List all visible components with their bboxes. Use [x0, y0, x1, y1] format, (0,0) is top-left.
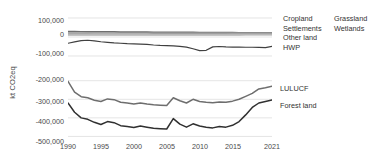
- gridlines-lower: [68, 81, 272, 137]
- legend-upper-right: Grassland Wetlands: [334, 14, 367, 33]
- series-group-lower: [68, 81, 272, 129]
- legend-item-settlements: Settlements: [283, 24, 322, 34]
- plot-area: [68, 0, 272, 150]
- legend-item-other-land: Other land: [283, 33, 322, 43]
- series-line-hwp: [68, 40, 272, 50]
- y-tick-neg200000: -200,000: [8, 76, 64, 84]
- legend-item-lulucf: LULUCF: [280, 84, 317, 94]
- y-tick-neg400000: -400,000: [8, 118, 64, 126]
- series-line-forest-land: [68, 100, 272, 129]
- chart-svg: [68, 0, 272, 150]
- legend-item-cropland: Cropland: [283, 14, 322, 24]
- gridlines-upper: [68, 18, 272, 56]
- x-tick-2015: 2015: [213, 142, 253, 151]
- series-line-lulucf: [68, 81, 272, 105]
- legend-item-wetlands: Wetlands: [334, 24, 367, 34]
- y-tick-neg100000: -100,000: [8, 50, 64, 58]
- legend-item-hwp: HWP: [283, 43, 322, 53]
- legend-item-grassland: Grassland: [334, 14, 367, 24]
- x-tick-2021: 2021: [252, 142, 292, 151]
- chart-figure: kt CO2eq 100,000 0 -100,000 -200,000 -30…: [0, 0, 379, 164]
- y-tick-100000: 100,000: [8, 17, 64, 25]
- y-tick-0: 0: [8, 31, 64, 39]
- y-axis-tick-labels: 100,000 0 -100,000 -200,000 -300,000 -40…: [0, 0, 64, 150]
- legend-upper-left: Cropland Settlements Other land HWP: [283, 14, 322, 52]
- y-tick-neg300000: -300,000: [8, 98, 64, 106]
- legend-item-forest-land: Forest land: [280, 101, 317, 111]
- series-group-upper: [68, 31, 272, 50]
- legend-lower: LULUCF Forest land: [280, 84, 317, 117]
